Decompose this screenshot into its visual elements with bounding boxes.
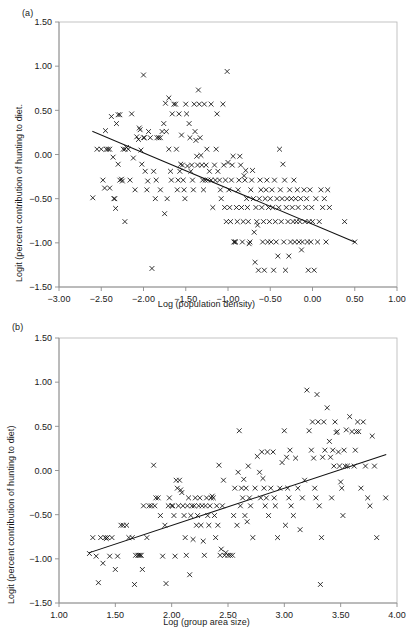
data-point-marker [246,464,251,469]
data-point-marker [110,535,115,540]
data-point-marker [164,581,169,586]
data-point-marker [172,513,177,518]
svg-text:4.00: 4.00 [388,610,406,620]
data-point-marker [309,448,314,453]
data-point-marker [242,173,247,178]
data-point-marker [199,523,204,528]
data-point-marker [202,102,207,107]
data-point-marker [164,129,169,134]
data-point-marker [162,211,167,216]
data-point-marker [204,495,209,500]
data-point-marker [198,135,203,140]
data-point-marker [208,503,213,508]
data-point-marker [308,187,313,192]
data-point-marker [295,187,300,192]
data-point-marker [318,582,323,587]
data-point-marker [359,486,364,491]
data-point-marker [280,196,285,201]
data-point-marker [308,240,313,245]
data-point-marker [266,513,271,518]
data-point-marker [306,268,311,273]
data-point-marker [129,111,134,116]
data-point-marker [94,554,99,559]
data-point-marker [230,163,235,168]
data-point-marker [210,205,215,210]
panel-a: (a) Logit (percent contribution of hunti… [0,0,413,318]
data-point-marker [160,554,165,559]
data-point-marker [317,503,322,508]
data-point-marker [257,470,262,475]
data-point-marker [279,219,284,224]
data-point-marker [111,155,116,160]
data-point-marker [241,477,246,482]
data-point-marker [304,196,309,201]
data-point-marker [282,178,287,183]
data-point-marker [319,187,324,192]
panel-b-plot-area: 1.501.000.500.00−0.50−1.00−1.501.001.502… [0,316,413,634]
data-point-marker [151,169,156,174]
data-point-marker [317,219,322,224]
data-point-marker [90,195,95,200]
data-point-marker [286,219,291,224]
data-point-marker [287,187,292,192]
data-point-marker [180,163,185,168]
data-point-marker [243,168,248,173]
data-point-marker [330,448,335,453]
data-point-marker [158,187,163,192]
data-point-marker [259,450,264,455]
data-point-marker [197,102,202,107]
data-point-marker [136,137,141,142]
data-point-marker [189,163,194,168]
data-point-marker [99,147,104,152]
data-point-marker [168,169,173,174]
data-point-marker [169,178,174,183]
data-point-marker [193,495,198,500]
data-point-marker [237,428,242,433]
data-point-marker [293,196,298,201]
data-point-marker [258,178,263,183]
panel-b: (b) Logit (percent contribution of hunti… [0,316,413,634]
data-point-marker [302,187,307,192]
data-point-marker [153,196,158,201]
figure-container: (a) Logit (percent contribution of hunti… [0,0,413,634]
data-point-marker [101,561,106,566]
data-point-marker [181,503,186,508]
data-point-marker [239,486,244,491]
data-point-marker [286,254,291,259]
data-point-marker [268,486,273,491]
data-point-marker [264,187,269,192]
data-point-marker [141,135,146,140]
data-point-marker [338,480,343,485]
data-point-marker [183,102,188,107]
data-point-marker [96,580,101,585]
data-point-marker [303,205,308,210]
data-point-marker [214,147,219,152]
data-point-marker [253,260,258,265]
data-point-marker [365,495,370,500]
data-point-marker [253,205,258,210]
data-point-marker [101,178,106,183]
data-point-marker [355,420,360,425]
data-point-marker [237,154,242,159]
data-point-marker [166,147,171,152]
data-point-marker [264,495,269,500]
data-point-marker [272,178,277,183]
svg-text:−3.00: −3.00 [48,294,71,304]
data-point-marker [313,196,318,201]
data-point-marker [337,464,342,469]
data-point-marker [250,535,255,540]
data-point-marker [173,554,178,559]
data-point-marker [315,392,320,397]
data-point-group [90,69,357,273]
data-point-marker [139,162,144,167]
data-point-marker [191,187,196,192]
data-point-marker [315,240,320,245]
data-point-marker [293,456,298,461]
data-point-marker [240,240,245,245]
data-point-marker [185,164,190,169]
data-point-marker [142,135,147,140]
svg-text:1.00: 1.00 [388,294,406,304]
data-point-marker [328,455,333,460]
svg-text:1.00: 1.00 [50,610,68,620]
data-point-marker [188,135,193,140]
